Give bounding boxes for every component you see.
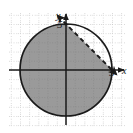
x-tick-label-5: 5 (109, 67, 115, 78)
y-tick-label-5: 5 (57, 19, 63, 30)
graph-figure: y x 5 5 (0, 0, 133, 133)
x-axis-label: x (122, 66, 126, 76)
